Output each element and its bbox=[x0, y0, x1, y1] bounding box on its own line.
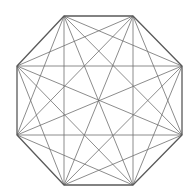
octagon-complete-graph bbox=[0, 0, 191, 194]
diagonal-edge bbox=[17, 66, 133, 185]
diagonal-edge bbox=[17, 16, 133, 135]
diagonal-edge bbox=[64, 66, 182, 185]
diagonal-edge bbox=[17, 66, 64, 185]
diagonal-edge bbox=[64, 16, 182, 135]
